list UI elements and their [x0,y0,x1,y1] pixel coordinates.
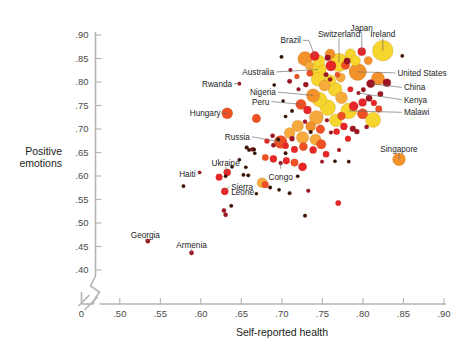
bubble-point [284,151,288,155]
y-tick-label: .45 [75,241,88,252]
bubble-point [400,54,404,58]
x-tick-label: .65 [235,308,248,319]
bubble-point [291,146,298,153]
bubble-point [371,100,377,106]
y-tick-label: .50 [75,217,88,228]
bubble-point [359,98,367,106]
bubble-point [283,157,290,164]
bubble-point [335,72,340,77]
y-tick-label: .60 [75,170,88,181]
bubble-point [325,55,331,61]
point-label-united-states: United States [397,69,446,78]
bubble-point [340,123,347,130]
bubble-point [280,55,284,59]
bubble-point [320,160,324,164]
y-tick-label: .85 [75,53,88,64]
bubble-point [299,142,307,150]
x-tick-label: .50 [113,308,126,319]
bubble-point [268,186,272,190]
bubble-point [223,213,227,217]
bubble-point [344,58,351,65]
bubble-point [262,181,269,188]
bubble-point [288,191,292,195]
bubble-point [316,139,326,149]
bubble-point [324,72,329,77]
x-axis-title: Self-reported health [236,326,328,338]
bubble-point [366,95,372,101]
bubble-point [310,146,317,153]
bubble-point [326,61,336,71]
point-label-peru: Peru [252,98,270,107]
y-tick-label: .70 [75,123,88,134]
bubble-point [296,132,308,144]
bubble-point [224,174,228,178]
bubble-point [255,192,258,195]
point-label-russia: Russia [225,133,250,142]
point-label-kenya: Kenya [404,96,428,105]
bubble-point [307,70,313,76]
point-label-rwanda: Rwanda [202,80,232,89]
x-tick-label: 0 [79,308,84,319]
point-label-nigeria: Nigeria [250,88,276,97]
bubble-point [282,142,288,148]
point-label-georgia: Georgia [131,231,161,240]
bubble-point [349,102,358,111]
bubble-point [277,188,281,192]
bubble-point [328,77,332,81]
bubble-point [272,83,276,87]
bubble-point [182,184,186,188]
point-label-australia: Australia [242,68,274,77]
x-tick-label: .60 [194,308,207,319]
point-label-brazil: Brazil [280,36,301,45]
y-tick-label: .75 [75,100,88,111]
bubble-point [306,189,310,193]
point-label-china: China [404,83,426,92]
bubble-point [316,125,325,134]
bubble-point [333,159,337,163]
bubble-point [222,208,226,212]
bubble-point [287,79,292,84]
bubble-point [298,163,306,171]
bubble-chart: .40.45.50.55.60.65.70.75.80.85.900.50.55… [0,0,457,349]
bubble-point [354,129,359,134]
bubble-point [337,112,345,120]
bubble-point [364,125,368,129]
bubble-point [270,155,277,162]
x-tick-label: .70 [275,308,288,319]
bubble-point [335,92,347,104]
bubble-point [270,134,274,138]
plot-area: .40.45.50.55.60.65.70.75.80.85.900.50.55… [0,0,457,349]
y-axis-title-line1: Positive [25,145,62,157]
bubble-point [335,200,341,206]
bubble-point [337,148,341,152]
bubble-point [247,148,251,152]
bubble-point [361,87,366,92]
bubble-point [329,131,333,135]
bubble-point [323,151,329,157]
bubble-point [333,128,339,134]
y-tick-label: .55 [75,194,88,205]
bubble-point [271,143,275,147]
bubble-point [350,55,360,65]
bubble-point [297,87,301,91]
x-tick-label: .75 [316,308,329,319]
bubble-point [364,56,372,64]
bubble-layer [145,40,405,255]
x-tick-label: .90 [437,308,450,319]
bubble-point [319,80,330,91]
bubble-point [246,173,250,177]
point-label-haiti: Haiti [179,170,196,179]
y-tick-label: .40 [75,264,88,275]
point-label-singapore: Singapore [380,145,418,154]
bubble-point [303,82,308,87]
bubble-point [296,174,300,178]
point-label-ukraine: Ukraine [211,159,240,168]
bubble-point [244,166,248,170]
point-label-congo: Congo [269,173,294,182]
bubble-point [309,130,313,134]
bubble-point [347,160,351,164]
bubble-nigeria [306,89,319,102]
bubble-point [262,154,268,160]
bubble-point [348,86,354,92]
bubble-point [289,136,294,141]
